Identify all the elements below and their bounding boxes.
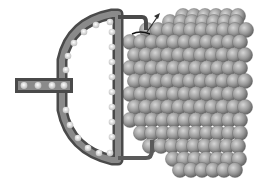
atomic-lattice bbox=[122, 8, 253, 177]
stem bbox=[15, 78, 73, 93]
diagram-canvas bbox=[0, 0, 269, 185]
lattice-atom bbox=[232, 125, 247, 140]
lattice-atom bbox=[227, 162, 242, 177]
diagram-svg bbox=[0, 0, 269, 185]
